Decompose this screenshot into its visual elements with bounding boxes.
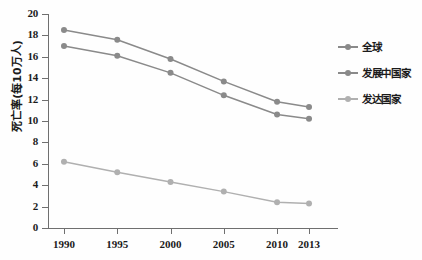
chart-legend: 全球发展中国家发达国家 [338,38,422,116]
series-point [114,53,120,59]
chart-series [61,43,312,122]
chart-series [61,27,312,110]
legend-item-label: 发达国家 [362,91,401,106]
series-point [274,199,280,205]
chart-page: 死亡率(每10万人) 02468101214161820 19901995200… [0,0,422,260]
series-point [61,159,67,165]
legend-swatch-icon [338,68,358,77]
series-point [274,112,280,118]
series-point [306,200,312,206]
series-line [64,30,309,107]
series-point [221,92,227,98]
legend-item[interactable]: 发达国家 [338,90,422,107]
series-point [306,104,312,110]
series-point [221,78,227,84]
series-point [61,43,67,49]
legend-item[interactable]: 发展中国家 [338,64,422,81]
series-line [64,162,309,204]
series-point [168,56,174,62]
legend-swatch-icon [338,94,358,103]
series-point [306,116,312,122]
series-line [64,46,309,119]
legend-swatch-icon [338,42,358,51]
chart-series [61,159,312,207]
series-point [221,189,227,195]
series-point [274,99,280,105]
series-point [168,70,174,76]
legend-item-label: 发展中国家 [362,65,411,80]
series-point [114,169,120,175]
legend-item-label: 全球 [362,39,381,54]
series-point [61,27,67,33]
legend-item[interactable]: 全球 [338,38,422,55]
series-point [114,37,120,43]
series-point [168,179,174,185]
